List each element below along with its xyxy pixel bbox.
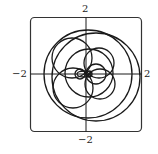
y-max-tick-label: 2 bbox=[82, 4, 88, 14]
x-max-tick-label: 2 bbox=[144, 69, 150, 79]
y-min-tick-label: −2 bbox=[78, 135, 93, 145]
polar-curve bbox=[44, 30, 140, 121]
x-min-tick-label: −2 bbox=[12, 69, 27, 79]
